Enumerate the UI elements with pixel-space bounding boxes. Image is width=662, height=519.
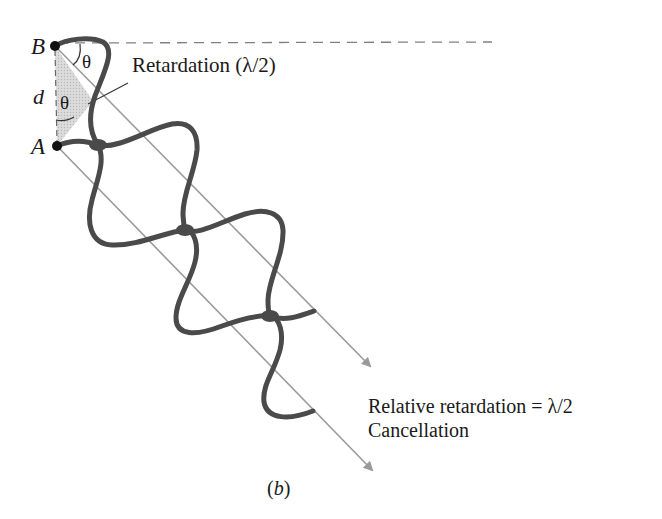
diffraction-diagram [0, 0, 662, 519]
angle-arc-top [73, 44, 80, 65]
theta-top-label: θ [82, 52, 91, 71]
point-b [50, 41, 60, 51]
relative-retardation-label: Relative retardation = λ/2 [368, 396, 573, 416]
wave-node-3 [261, 310, 279, 322]
wave-node-1 [89, 139, 107, 151]
retardation-label: Retardation (λ/2) [132, 55, 276, 76]
horizontal-reference-line [58, 42, 492, 43]
figure-caption: (b) [267, 478, 290, 498]
cancellation-label: Cancellation [368, 420, 469, 440]
point-b-label: B [31, 35, 45, 58]
theta-mid-label: θ [60, 93, 69, 112]
ray-from-b [55, 46, 370, 366]
ray-from-a [57, 146, 372, 470]
point-a [52, 141, 62, 151]
separation-d-label: d [33, 86, 44, 108]
point-a-label: A [31, 135, 45, 158]
wave-node-2 [176, 224, 194, 236]
caption-letter: b [274, 477, 284, 499]
